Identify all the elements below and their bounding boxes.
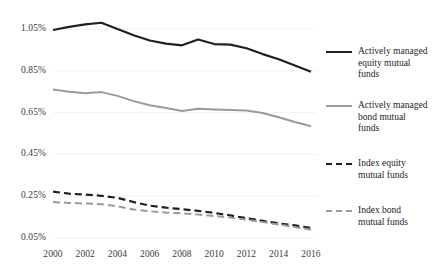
legend-item-index-equity: Index equity mutual funds xyxy=(326,158,437,181)
legend-line-1: Actively managed xyxy=(358,100,427,110)
legend-line-3: funds xyxy=(358,123,379,133)
x-axis-tick-label: 2000 xyxy=(36,249,70,259)
series-line-0 xyxy=(53,23,311,72)
legend-line-2: equity mutual xyxy=(358,58,411,68)
y-axis-tick-label: 0.65% xyxy=(2,107,46,117)
plot-area xyxy=(0,0,437,274)
x-axis-tick-label: 2008 xyxy=(165,249,199,259)
legend-swatch-solid-black-icon xyxy=(326,46,352,58)
x-axis-tick-label: 2014 xyxy=(262,249,296,259)
x-axis-tick-label: 2012 xyxy=(230,249,264,259)
x-axis-tick-label: 2016 xyxy=(294,249,328,259)
legend-swatch-solid-gray-icon xyxy=(326,100,352,112)
y-axis-tick-label: 0.85% xyxy=(2,65,46,75)
legend-item-actively-managed-bond: Actively managed bond mutual funds xyxy=(326,100,437,135)
y-axis-tick-label: 0.25% xyxy=(2,190,46,200)
series-line-3 xyxy=(53,202,311,230)
legend-line-1: Index bond xyxy=(358,205,401,215)
legend-item-index-bond: Index bond mutual funds xyxy=(326,205,437,228)
legend-label-actively-managed-bond: Actively managed bond mutual funds xyxy=(358,100,437,135)
series-line-1 xyxy=(53,90,311,127)
y-axis-tick-label: 1.05% xyxy=(2,23,46,33)
x-axis-tick-label: 2004 xyxy=(101,249,135,259)
line-chart: 0.05%0.25%0.45%0.65%0.85%1.05% 200020022… xyxy=(0,0,437,274)
legend-swatch-dashed-gray-icon xyxy=(326,205,352,217)
legend-line-1: Actively managed xyxy=(358,46,427,56)
x-axis-tick-label: 2002 xyxy=(68,249,102,259)
x-axis-tick-label: 2006 xyxy=(133,249,167,259)
legend-line-2: bond mutual xyxy=(358,112,406,122)
y-axis-tick-label: 0.05% xyxy=(2,232,46,242)
legend-line-2: mutual funds xyxy=(358,170,408,180)
legend-label-index-bond: Index bond mutual funds xyxy=(358,205,437,228)
x-axis-tick-label: 2010 xyxy=(197,249,231,259)
legend-line-3: funds xyxy=(358,69,379,79)
legend-line-2: mutual funds xyxy=(358,217,408,227)
legend-item-actively-managed-equity: Actively managed equity mutual funds xyxy=(326,46,437,81)
legend-label-index-equity: Index equity mutual funds xyxy=(358,158,437,181)
legend-swatch-dashed-black-icon xyxy=(326,158,352,170)
legend-line-1: Index equity xyxy=(358,158,406,168)
y-axis-tick-label: 0.45% xyxy=(2,148,46,158)
legend-label-actively-managed-equity: Actively managed equity mutual funds xyxy=(358,46,437,81)
